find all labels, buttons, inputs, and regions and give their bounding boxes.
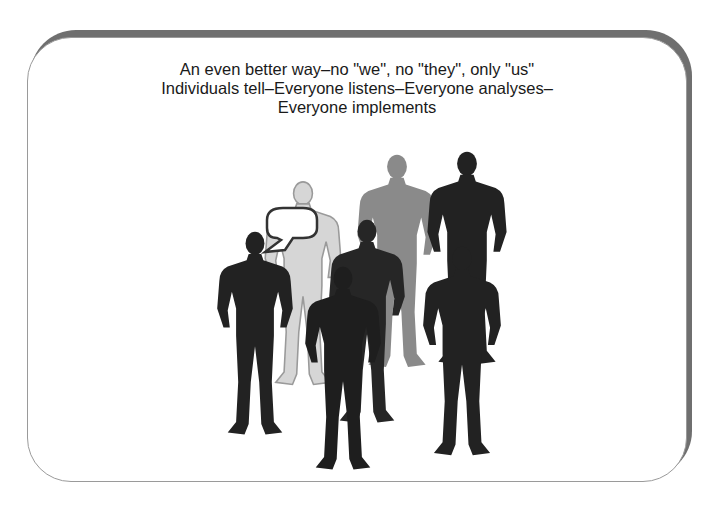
- slide-caption: An even better way–no "we", no "they", o…: [27, 60, 687, 117]
- person-dark-left: [217, 232, 293, 435]
- caption-line-1: An even better way–no "we", no "they", o…: [27, 60, 687, 79]
- people-group-illustration: [205, 140, 525, 470]
- caption-line-3: Everyone implements: [27, 98, 687, 117]
- caption-line-2: Individuals tell–Everyone listens–Everyo…: [27, 79, 687, 98]
- person-dark-right: [423, 247, 501, 455]
